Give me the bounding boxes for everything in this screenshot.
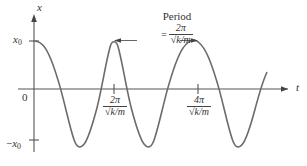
- y-axis-arrowhead: [31, 14, 37, 22]
- origin-label: 0: [22, 92, 28, 103]
- x-tick-label-1: 2π √k/m: [92, 94, 138, 117]
- period-denominator: √k/m: [169, 34, 193, 46]
- x-tick-label-2: 4π √k/m: [176, 94, 222, 117]
- x-tick-1-fraction: 2π √k/m: [103, 95, 127, 117]
- x-tick-1-denominator: √k/m: [103, 106, 127, 118]
- period-equals-sign: =: [161, 29, 167, 40]
- x-tick-2-denominator: √k/m: [187, 106, 211, 118]
- y-bottom-subscript: 0: [17, 142, 21, 151]
- y-axis-name-label: x: [37, 2, 42, 13]
- period-numerator: 2π: [173, 23, 189, 34]
- cosine-curve: [34, 40, 267, 147]
- x-axis-arrowhead: [281, 86, 288, 92]
- x-tick-2-numerator: 4π: [191, 95, 207, 106]
- x-tick-2-fraction: 4π √k/m: [187, 95, 211, 117]
- period-title-label: Period: [139, 10, 215, 22]
- x-tick-1-numerator: 2π: [107, 95, 123, 106]
- period-annotation: Period = 2π √k/m: [139, 10, 215, 45]
- y-top-subscript: 0: [18, 38, 22, 47]
- y-tick-label-negative-amplitude: −x0: [6, 138, 21, 151]
- x-axis-name-label: t: [296, 82, 299, 93]
- y-tick-label-amplitude: x0: [13, 34, 22, 47]
- oscillation-figure: x t x0 0 −x0 Period = 2π √k/m 2π √k/m 4π…: [0, 0, 307, 166]
- period-fraction: 2π √k/m: [169, 23, 193, 45]
- period-expression: = 2π √k/m: [139, 23, 215, 45]
